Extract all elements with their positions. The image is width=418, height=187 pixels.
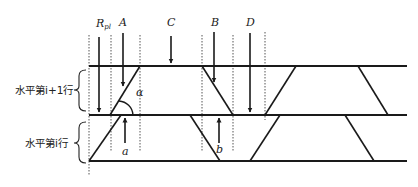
b-lower-label: b bbox=[216, 143, 223, 156]
row-diagram: Rpl A C B D α a b 水平第i+1行 水平第i行 bbox=[0, 0, 418, 187]
a-label: A bbox=[118, 16, 127, 29]
brace-upper bbox=[74, 70, 86, 111]
a-lower-label: a bbox=[122, 145, 129, 158]
c-label: C bbox=[167, 16, 176, 29]
slant-segment bbox=[250, 115, 280, 161]
slant-segment bbox=[89, 115, 121, 161]
slant-segment bbox=[265, 66, 296, 115]
angle-arc bbox=[119, 101, 133, 115]
alpha-label: α bbox=[136, 86, 144, 99]
brace-lower bbox=[74, 122, 86, 163]
b-label: B bbox=[210, 16, 219, 29]
d-label: D bbox=[245, 16, 255, 29]
row-upper-label: 水平第i+1行 bbox=[15, 84, 74, 96]
row-lower-label: 水平第i行 bbox=[25, 137, 69, 149]
slant-segment bbox=[358, 66, 388, 115]
slant-segment bbox=[202, 66, 233, 115]
r-pl-label: Rpl bbox=[95, 17, 111, 31]
slant-segment bbox=[345, 115, 374, 161]
